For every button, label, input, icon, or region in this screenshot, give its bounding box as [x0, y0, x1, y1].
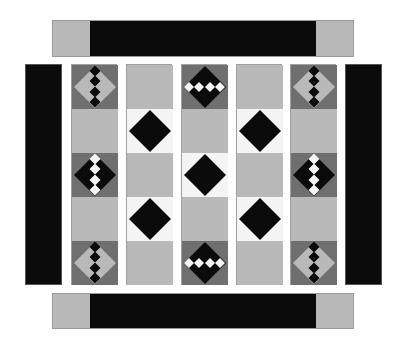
light-block [127, 241, 171, 285]
light-block [72, 109, 116, 153]
gray-diamond-black-chain-block [72, 65, 116, 109]
light-block [291, 197, 335, 241]
light-block [127, 65, 171, 109]
gray-end-block [53, 21, 90, 56]
gray-end-block [316, 21, 353, 56]
light-block [237, 65, 281, 109]
black-diamond-block [127, 109, 171, 153]
light-block [237, 153, 281, 197]
column-3 [181, 64, 227, 285]
light-block [72, 197, 116, 241]
light-block [291, 109, 335, 153]
black-diamond-block [237, 197, 281, 241]
black-diamond-block [127, 197, 171, 241]
black-diamond-block [237, 109, 281, 153]
gray-diamond-black-chain-block [72, 241, 116, 285]
column-2 [126, 64, 172, 285]
black-strip [90, 21, 316, 56]
light-block [182, 197, 226, 241]
bottom-border-bar [52, 293, 354, 329]
gray-end-block [53, 294, 90, 328]
black-diamond-white-chain-block [72, 153, 116, 197]
column-4 [236, 64, 282, 285]
gray-end-block [316, 294, 353, 328]
light-block [237, 241, 281, 285]
light-block [127, 153, 171, 197]
black-diamond-white-row-block [182, 65, 226, 109]
left-border-bar [25, 64, 62, 285]
gray-diamond-black-chain-block [291, 241, 335, 285]
column-5 [290, 64, 336, 285]
gray-diamond-black-chain-block [291, 65, 335, 109]
light-block [182, 109, 226, 153]
black-diamond-white-chain-block [291, 153, 335, 197]
column-1 [71, 64, 117, 285]
black-strip [90, 294, 316, 328]
black-diamond-block [182, 153, 226, 197]
right-border-bar [345, 64, 382, 285]
top-border-bar [52, 20, 354, 57]
black-diamond-white-row-block [182, 241, 226, 285]
